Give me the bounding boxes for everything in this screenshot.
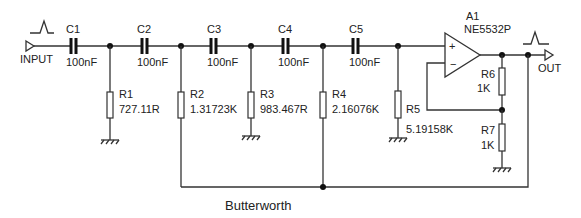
r1-value: 727.11R: [119, 103, 160, 115]
output-pulse-icon: [523, 32, 549, 44]
r3-value: 983.467R: [260, 103, 308, 115]
r6-ref: R6: [481, 68, 495, 80]
output-port-icon: [545, 50, 553, 60]
r3-ref: R3: [260, 88, 274, 100]
r4-value: 2.16076K: [332, 103, 380, 115]
r2-value: 1.31723K: [190, 103, 238, 115]
r7-ref: R7: [481, 124, 495, 136]
input-label: INPUT: [20, 53, 53, 65]
c2-ref: C2: [137, 23, 151, 35]
r5-ref: R5: [406, 103, 420, 115]
r7-value: 1K: [481, 139, 495, 151]
c5-ref: C5: [349, 23, 363, 35]
r2-ref: R2: [190, 88, 204, 100]
schematic: INPUT C1 100nF C2 100nF C3 100nF C4 100n…: [0, 0, 581, 218]
input-pulse-icon: [30, 21, 54, 33]
input-port-icon: [26, 41, 34, 51]
diagram-caption: Butterworth: [225, 198, 291, 213]
r4-ref: R4: [332, 88, 346, 100]
resistor-r5[interactable]: R5 5.19158K: [389, 46, 454, 142]
bottom-bus-wire: [181, 55, 528, 187]
opamp-a1[interactable]: + − A1 NE5532P: [445, 10, 511, 77]
c3-ref: C3: [207, 23, 221, 35]
opamp-part: NE5532P: [464, 23, 511, 35]
ground-icon: [389, 138, 407, 142]
ground-icon: [493, 168, 511, 172]
c1-ref: C1: [66, 23, 80, 35]
c4-ref: C4: [278, 23, 292, 35]
junction-dot: [320, 184, 326, 190]
c4-value: 100nF: [278, 56, 309, 68]
resistor-r7[interactable]: R7 1K: [481, 110, 511, 172]
c1-value: 100nF: [66, 56, 97, 68]
r6-value: 1K: [477, 82, 491, 94]
opamp-plus: +: [449, 40, 455, 52]
c2-value: 100nF: [137, 56, 168, 68]
ground-icon: [101, 140, 119, 144]
r5-value: 5.19158K: [406, 123, 454, 135]
opamp-ref: A1: [466, 10, 479, 22]
resistor-r6[interactable]: R6 1K: [477, 55, 505, 110]
r1-ref: R1: [119, 88, 133, 100]
ground-icon: [242, 136, 260, 140]
opamp-minus: −: [450, 58, 456, 70]
c3-value: 100nF: [207, 56, 238, 68]
c5-value: 100nF: [349, 56, 380, 68]
output-label: OUT: [538, 62, 562, 74]
